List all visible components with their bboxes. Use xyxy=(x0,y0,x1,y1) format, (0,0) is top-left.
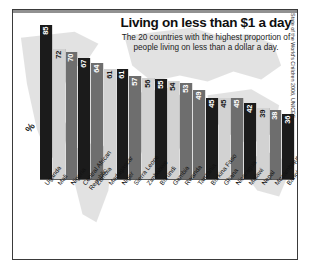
category-slot: Sierra Leone xyxy=(129,180,141,258)
bar-slot: 39 xyxy=(257,16,269,179)
bar-slot: 42 xyxy=(244,16,256,179)
bar[interactable]: 54 xyxy=(168,81,180,179)
category-slot: Gambia xyxy=(168,180,180,258)
bar-value-label: 49 xyxy=(195,92,203,100)
bar[interactable]: 85 xyxy=(40,25,52,179)
bar-slot: 85 xyxy=(40,16,52,179)
chart-frame: Living on less than $1 a day The 20 coun… xyxy=(12,9,298,260)
category-slot: Uganda xyxy=(40,180,52,258)
bar-slot: 57 xyxy=(129,16,141,179)
category-slot: Burundi xyxy=(155,180,167,258)
category-slot: Rwanda xyxy=(180,180,192,258)
category-slot: Burkina Faso xyxy=(206,180,218,258)
category-slot: Nicaragua xyxy=(231,180,243,258)
category-slot: Zimbabwe xyxy=(142,180,154,258)
category-slot: Mozambique xyxy=(270,180,282,258)
bar-value-label: 45 xyxy=(221,99,229,107)
bar-slot: 67 xyxy=(78,16,90,179)
bar-value-label: 53 xyxy=(182,85,190,93)
bar-slot: 72 xyxy=(53,16,65,179)
bar-value-label: 57 xyxy=(131,78,139,86)
bar-slot: 70 xyxy=(66,16,78,179)
category-slot: Bangladesh xyxy=(282,180,294,258)
category-slot: Tanzania xyxy=(193,180,205,258)
bar-value-label: 85 xyxy=(42,27,50,35)
bar[interactable]: 67 xyxy=(78,58,90,179)
bar-value-label: 72 xyxy=(55,50,63,58)
chart-figure: Living on less than $1 a day The 20 coun… xyxy=(0,0,323,276)
bar-slot: 49 xyxy=(193,16,205,179)
bar-value-label: 70 xyxy=(68,54,76,62)
bar-value-label: 45 xyxy=(233,99,241,107)
bar-value-label: 45 xyxy=(208,99,216,107)
bar-slot: 45 xyxy=(219,16,231,179)
category-slot: Madagascar xyxy=(104,180,116,258)
bar-value-label: 54 xyxy=(170,83,178,91)
bar-value-label: 61 xyxy=(119,70,127,78)
category-slot: Niger xyxy=(117,180,129,258)
bar-value-label: 39 xyxy=(259,110,267,118)
bar-slot: 45 xyxy=(206,16,218,179)
bar-value-label: 64 xyxy=(93,65,101,73)
plot-area: 8572706764616157565554534945454542393836 xyxy=(40,16,294,179)
category-slot: Zambia xyxy=(91,180,103,258)
bar[interactable]: 70 xyxy=(66,52,78,179)
bar-slot: 38 xyxy=(270,16,282,179)
bar-slot: 54 xyxy=(168,16,180,179)
bar-series: 8572706764616157565554534945454542393836 xyxy=(40,16,294,179)
bar-value-label: 56 xyxy=(144,79,152,87)
category-slot: Central African Republic xyxy=(78,180,90,258)
category-slot: Mali xyxy=(53,180,65,258)
category-slot: Nigeria xyxy=(66,180,78,258)
bar[interactable]: 72 xyxy=(53,49,65,179)
bar-value-label: 42 xyxy=(246,105,254,113)
category-slot: Malawi xyxy=(244,180,256,258)
bar-value-label: 61 xyxy=(106,70,114,78)
source-credit: State of the World's Children 2006, UNIC… xyxy=(290,13,296,118)
x-axis-tick-labels: UgandaMaliNigeriaCentral African Republi… xyxy=(40,180,294,258)
bar-value-label: 67 xyxy=(80,59,88,67)
bar-value-label: 55 xyxy=(157,81,165,89)
category-slot: Nepal xyxy=(257,180,269,258)
bar-value-label: 38 xyxy=(272,112,280,120)
bar-slot: 53 xyxy=(180,16,192,179)
category-slot: Ghana xyxy=(219,180,231,258)
